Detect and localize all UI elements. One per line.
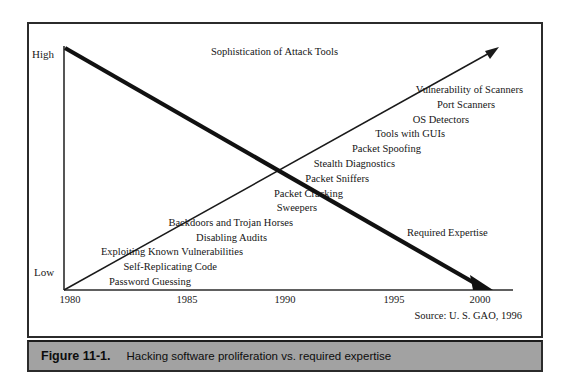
x-tick-1985: 1985 (177, 294, 198, 305)
figure-caption-text: Hacking software proliferation vs. requi… (126, 350, 391, 362)
attack-tool-label: Vulnerability of Scanners (416, 84, 523, 95)
attack-tool-label: Backdoors and Trojan Horses (168, 217, 293, 228)
attack-tool-label: OS Detectors (413, 114, 469, 125)
attack-tool-label: Disabling Audits (196, 232, 267, 243)
attack-tool-label: Packet Spoofing (352, 143, 421, 154)
figure-number: Figure 11-1. (41, 349, 110, 363)
descending-trend-label: Required Expertise (407, 227, 488, 238)
plot-area: High Low 19801985199019952000 Vulnerabil… (29, 24, 541, 336)
figure-caption-bar: Figure 11-1. Hacking software proliferat… (27, 340, 543, 372)
attack-tool-label: Password Guessing (109, 276, 191, 287)
x-tick-1990: 1990 (275, 294, 296, 305)
x-tick-1980: 1980 (60, 294, 81, 305)
ascending-arrowhead (485, 47, 499, 59)
attack-tool-label: Port Scanners (437, 99, 495, 110)
figure-container: High Low 19801985199019952000 Vulnerabil… (0, 0, 568, 382)
attack-tool-label: Stealth Diagnostics (314, 158, 395, 169)
descending-arrowhead (470, 275, 493, 290)
attack-tool-label: Self-Replicating Code (123, 261, 217, 272)
source-note: Source: U. S. GAO, 1996 (414, 310, 522, 321)
ascending-trend-label: Sophistication of Attack Tools (211, 46, 338, 57)
x-tick-1995: 1995 (384, 294, 405, 305)
attack-tool-label: Packet Cracking (274, 188, 343, 199)
attack-tool-label: Exploiting Known Vulnerabilities (101, 246, 243, 257)
attack-tool-label: Tools with GUIs (375, 128, 445, 139)
attack-tool-label: Packet Sniffers (305, 173, 369, 184)
y-axis-low-label: Low (34, 266, 54, 278)
y-axis-high-label: High (32, 48, 54, 60)
plot-graphics (29, 24, 541, 336)
attack-tool-label: Sweepers (277, 202, 317, 213)
figure-panel: High Low 19801985199019952000 Vulnerabil… (27, 22, 543, 338)
x-tick-2000: 2000 (470, 294, 491, 305)
